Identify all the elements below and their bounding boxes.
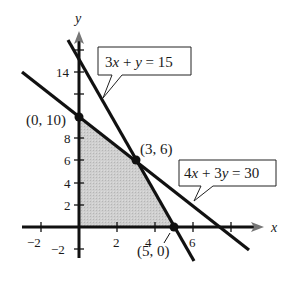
equation-callout-1: 3x + y = 15 [98, 47, 191, 98]
y-tick-label: 8 [64, 131, 71, 146]
x-tick-label: 6 [189, 235, 196, 250]
point-label-0-10: (0, 10) [26, 112, 66, 129]
point-label-3-6: (3, 6) [140, 141, 173, 158]
x-tick-label: 2 [113, 235, 120, 250]
y-tick-label: −2 [51, 242, 65, 257]
x-axis-label: x [270, 220, 278, 235]
y-tick-label: 2 [64, 198, 71, 213]
feasible-region [79, 116, 174, 227]
x-tick-label: −2 [27, 235, 41, 250]
point-label-5-0-leader [164, 233, 170, 243]
equation-callout-2: 4x + 3y = 30 [179, 160, 276, 201]
point-label-5-0: (5, 0) [137, 243, 170, 260]
y-tick-label: 6 [64, 153, 71, 168]
y-tick-label: 14 [56, 65, 70, 80]
vertex-point-5-0 [170, 223, 179, 232]
equation-label-2: 4x + 3y = 30 [184, 165, 259, 181]
linear-programming-graph: x y −2 2 4 6 −2 2 4 6 8 14 (0, 10) (3, 6… [0, 0, 296, 281]
y-tick-label: 4 [64, 176, 71, 191]
equation-label-1: 3x + y = 15 [105, 54, 173, 70]
vertex-point-0-10 [75, 113, 84, 122]
y-axis-label: y [73, 11, 82, 26]
